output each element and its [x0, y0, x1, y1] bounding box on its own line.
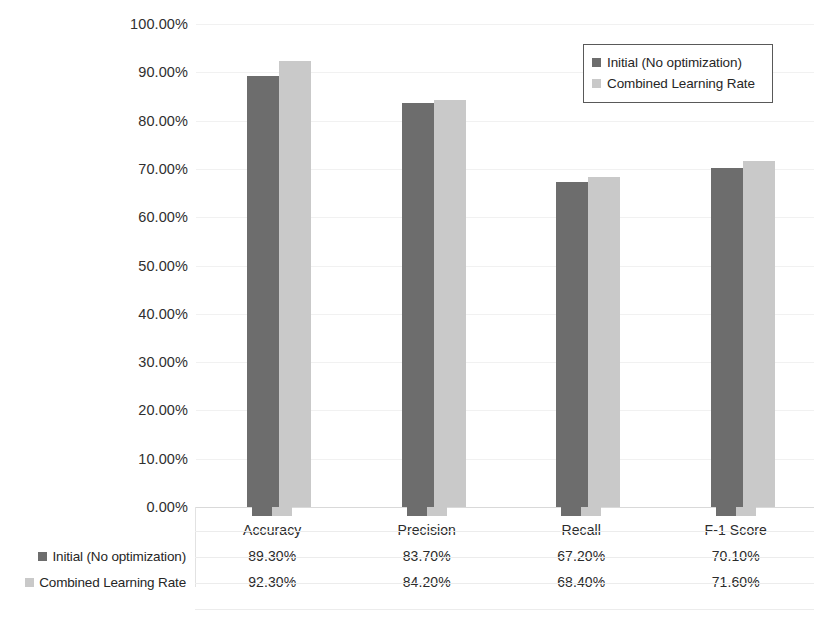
- y-axis-tick-label: 80.00%: [96, 113, 188, 129]
- series-0-color-icon: [252, 507, 272, 516]
- bar-group: [351, 24, 506, 507]
- table-row[interactable]: Combined Learning Rate92.30%84.20%68.40%…: [0, 569, 831, 595]
- legend-swatch-icon: [592, 79, 601, 88]
- y-axis-tick-label: 100.00%: [96, 16, 188, 32]
- table-cell: 89.30%: [195, 548, 350, 564]
- table-cell: 83.70%: [350, 548, 505, 564]
- y-axis-tick-label: 40.00%: [96, 306, 188, 322]
- table-column-header: Accuracy: [195, 522, 350, 538]
- y-axis-tick-label: 70.00%: [96, 161, 188, 177]
- bar[interactable]: [588, 177, 620, 507]
- bar[interactable]: [402, 103, 434, 507]
- table-row[interactable]: Initial (No optimization)89.30%83.70%67.…: [0, 543, 831, 569]
- bar[interactable]: [434, 100, 466, 507]
- table-header-row: AccuracyPrecisionRecallF-1 Score: [0, 517, 831, 543]
- table-cell: 68.40%: [504, 574, 659, 590]
- bar-group: [196, 24, 351, 507]
- bar[interactable]: [743, 161, 775, 507]
- table-series-color-strip: [195, 507, 814, 516]
- data-table: AccuracyPrecisionRecallF-1 ScoreInitial …: [0, 507, 831, 587]
- y-axis-tick-label: 90.00%: [96, 64, 188, 80]
- bar-chart: 100.00%90.00%80.00%70.00%60.00%50.00%40.…: [0, 0, 831, 620]
- series-color-swatch-icon: [38, 552, 47, 561]
- table-cell: 71.60%: [659, 574, 814, 590]
- table-column-header: F-1 Score: [659, 522, 814, 538]
- table-horizontal-divider: [195, 609, 814, 610]
- series-1-color-icon: [581, 507, 601, 516]
- series-0-color-icon: [407, 507, 427, 516]
- table-cell: 92.30%: [195, 574, 350, 590]
- series-color-swatch-icon: [25, 578, 34, 587]
- y-axis-tick-label: 50.00%: [96, 258, 188, 274]
- table-horizontal-divider: [195, 583, 814, 584]
- table-column-header: Recall: [504, 522, 659, 538]
- series-1-color-icon: [736, 507, 756, 516]
- bar[interactable]: [247, 76, 279, 507]
- y-axis-tick-label: 10.00%: [96, 451, 188, 467]
- table-horizontal-divider: [195, 557, 814, 558]
- series-1-color-icon: [272, 507, 292, 516]
- chart-legend: Initial (No optimization)Combined Learni…: [583, 44, 773, 103]
- series-color-marker: [504, 507, 659, 516]
- table-cell: 84.20%: [350, 574, 505, 590]
- series-color-marker: [195, 507, 350, 516]
- legend-item[interactable]: Initial (No optimization): [592, 52, 764, 73]
- bar[interactable]: [556, 182, 588, 507]
- bar[interactable]: [279, 61, 311, 507]
- y-axis-tick-label: 20.00%: [96, 402, 188, 418]
- series-color-marker: [350, 507, 505, 516]
- legend-item[interactable]: Combined Learning Rate: [592, 73, 764, 94]
- legend-swatch-icon: [592, 58, 601, 67]
- table-row-label-text: Combined Learning Rate: [39, 575, 186, 590]
- table-row-label: Combined Learning Rate: [0, 575, 195, 590]
- table-horizontal-divider: [195, 531, 814, 532]
- legend-item-label: Combined Learning Rate: [607, 76, 755, 91]
- table-row-label-text: Initial (No optimization): [52, 549, 186, 564]
- series-0-color-icon: [561, 507, 581, 516]
- series-1-color-icon: [427, 507, 447, 516]
- y-axis-tick-label: 30.00%: [96, 354, 188, 370]
- table-cell: 70.10%: [659, 548, 814, 564]
- y-axis-tick-label: 60.00%: [96, 209, 188, 225]
- table-column-header: Precision: [350, 522, 505, 538]
- legend-item-label: Initial (No optimization): [607, 55, 742, 70]
- bar[interactable]: [711, 168, 743, 507]
- series-color-marker: [659, 507, 814, 516]
- table-row-label: Initial (No optimization): [0, 549, 195, 564]
- series-0-color-icon: [716, 507, 736, 516]
- table-cell: 67.20%: [504, 548, 659, 564]
